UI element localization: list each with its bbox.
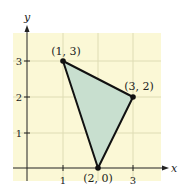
y-axis-arrow-icon — [25, 25, 30, 32]
chart-figure: 3 2 1 1 3 x y (1, 3) (3, 2) (2, 0) — [0, 0, 190, 188]
point-label-1-3: (1, 3) — [51, 45, 81, 58]
x-tick-label-1: 1 — [60, 175, 66, 186]
y-axis-label: y — [23, 11, 31, 24]
vertex-point-3-2 — [130, 94, 136, 100]
x-axis-label: x — [171, 162, 178, 175]
y-tick-label-2: 2 — [16, 92, 22, 103]
point-label-3-2: (3, 2) — [124, 80, 154, 93]
vertex-point-2-0 — [95, 165, 101, 171]
point-label-2-0: (2, 0) — [83, 172, 113, 185]
x-axis-arrow-icon — [162, 166, 169, 171]
y-tick-label-1: 1 — [16, 128, 22, 139]
x-tick-label-3: 3 — [130, 175, 136, 186]
y-tick-label-3: 3 — [16, 56, 22, 67]
vertex-point-1-3 — [60, 58, 66, 64]
